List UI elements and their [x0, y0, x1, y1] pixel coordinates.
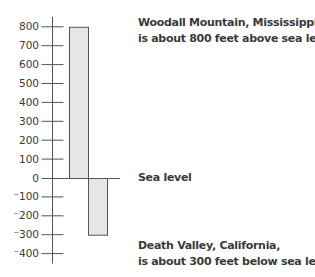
y-tick-label: 100 — [19, 153, 39, 165]
y-tick-label: ⁻100 — [13, 190, 39, 202]
y-tick-label: ⁻400 — [13, 247, 39, 259]
y-tick-label: ⁻200 — [13, 209, 39, 221]
y-tick-label: 700 — [19, 39, 39, 51]
y-tick-label: 0 — [32, 172, 39, 184]
y-tick-label: 800 — [19, 20, 39, 32]
y-tick-label: 200 — [19, 134, 39, 146]
woodall-line1: Woodall Mountain, Mississippi, — [138, 15, 315, 31]
woodall-annotation: Woodall Mountain, Mississippi, is about … — [138, 15, 315, 47]
y-tick-label: 500 — [19, 77, 39, 89]
y-tick-label: ⁻300 — [13, 228, 39, 240]
bar-woodall-mountain — [70, 27, 89, 178]
bar-death-valley — [89, 179, 108, 236]
y-tick-label: 400 — [19, 96, 39, 108]
y-tick-label: 300 — [19, 115, 39, 127]
death-valley-line2: is about 300 feet below sea level — [138, 254, 315, 270]
death-valley-line1: Death Valley, California, — [138, 238, 315, 254]
y-tick-label: 600 — [19, 58, 39, 70]
death-valley-annotation: Death Valley, California, is about 300 f… — [138, 238, 315, 270]
sea-level-label: Sea level — [138, 170, 192, 186]
woodall-line2: is about 800 feet above sea level — [138, 31, 315, 47]
